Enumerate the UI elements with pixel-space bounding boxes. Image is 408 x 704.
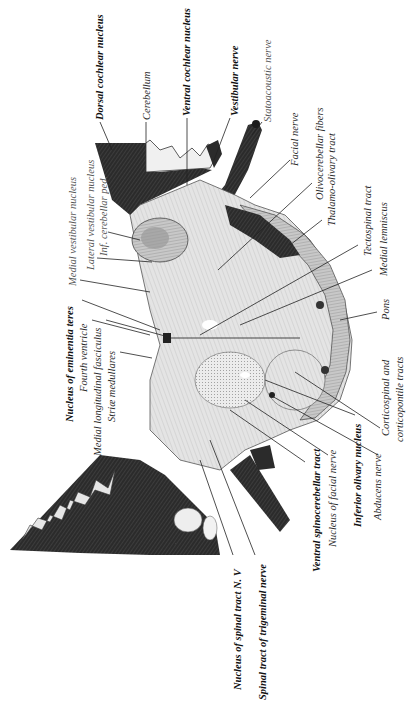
brainstem-illustration — [0, 0, 408, 704]
label-dorsal-cochlear-nucleus: Dorsal cochlear nucleus — [94, 14, 106, 120]
label-vestibular-nerve: Vestibular nerve — [229, 46, 241, 116]
label-ventral-spinocerebellar-tract: Ventral spinocerebellar tract — [311, 449, 323, 572]
label-medial-longitudinal-fasciculus: Medial longitudinal fasciculus — [92, 328, 104, 456]
label-inferior-olivary-nucleus: Inferior olivary nucleus — [352, 424, 364, 527]
label-lateral-vestibular-nucleus: Lateral vestibular nucleus — [85, 160, 97, 270]
label-striae-medullares: Striæ medullares — [106, 351, 118, 422]
label-olivocerebellar-fibers: Olivocerebellar fibers — [314, 107, 326, 200]
brainstem-section-figure: Dorsal cochlear nucleus Cerebellum Ventr… — [0, 0, 408, 704]
label-cerebellum: Cerebellum — [141, 71, 153, 120]
label-facial-nerve: Facial nerve — [289, 113, 301, 166]
label-thalamo-olivary-tract: Thalamo-olivary tract — [326, 133, 338, 226]
label-abducens-nerve: Abducens nerve — [372, 453, 384, 520]
label-spinal-tract-of-trigeminal-nerve: Spinal tract of trigeminal nerve — [257, 564, 269, 700]
cerebellum-bottom-region — [10, 445, 290, 555]
label-medial-vestibular-nucleus: Medial vestibular nucleus — [67, 177, 79, 286]
label-ventral-cochlear-nucleus: Ventral cochlear nucleus — [181, 8, 193, 116]
label-nucleus-of-eminentia-teres: Nucleus of eminentia teres — [64, 306, 76, 422]
label-nucleus-of-spinal-tract-nv: Nucleus of spinal tract N. V — [232, 569, 244, 690]
label-pons: Pons — [380, 299, 392, 320]
label-tectospinal-tract: Tectospinal tract — [362, 186, 374, 257]
label-corticopontile-tracts: corticopontile tracts — [394, 357, 406, 442]
label-medial-lemniscus: Medial lemniscus — [378, 202, 390, 276]
label-fourth-ventricle: Fourth ventricle — [78, 323, 90, 392]
label-corticospinal-and: Corticospinal and — [380, 360, 392, 436]
label-inf-cerebellar-ped: Inf. cerebellar ped. — [98, 176, 110, 256]
label-statoacoustic-nerve: Statoacoustic nerve — [262, 39, 274, 122]
label-nucleus-of-facial-nerve: Nucleus of facial nerve — [327, 450, 339, 547]
